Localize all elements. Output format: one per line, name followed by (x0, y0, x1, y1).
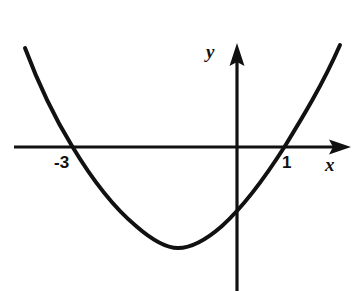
y-axis-label: y (206, 42, 214, 61)
x-axis-label: x (325, 155, 335, 174)
parabola-figure: y x -3 1 (0, 0, 364, 291)
x-intercept-right-label: 1 (282, 154, 291, 171)
x-intercept-left-label: -3 (54, 154, 69, 171)
graph-canvas (0, 0, 364, 291)
